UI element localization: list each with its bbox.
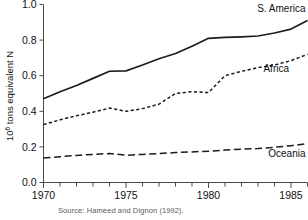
- series-label-s-america: S. America: [257, 3, 306, 14]
- data-series-group: [44, 21, 308, 159]
- x-tick-label: 1980: [197, 189, 221, 201]
- y-tick-label: 0.6: [22, 69, 37, 81]
- y-tick-label: 0.8: [22, 34, 37, 46]
- source-caption: Source: Hameed and Dignon (1992).: [58, 206, 298, 215]
- y-tick-label: 0.2: [22, 141, 37, 153]
- x-axis-tick-labels: 1970197519801985: [32, 189, 303, 201]
- y-axis-title: 106 tons equivalent N: [4, 51, 15, 141]
- x-tick-label: 1970: [32, 189, 56, 201]
- series-label-oceania: Oceania: [268, 148, 306, 159]
- y-tick-label: 0.4: [22, 105, 37, 117]
- y-tick-label: 1.0: [22, 0, 37, 10]
- line-chart-plot: 0.00.20.40.60.81.0 1970197519801985 S. A…: [0, 0, 308, 220]
- y-tick-label: 0.0: [22, 176, 37, 188]
- x-tick-label: 1975: [114, 189, 138, 201]
- x-tick-label: 1985: [279, 189, 303, 201]
- y-axis-tick-labels: 0.00.20.40.60.81.0: [22, 0, 37, 188]
- svg-text:106 tons equivalent N: 106 tons equivalent N: [4, 51, 15, 141]
- series-label-africa: Africa: [263, 63, 289, 74]
- chart-figure: 0.00.20.40.60.81.0 1970197519801985 S. A…: [0, 0, 308, 220]
- series-line-s-america: [44, 21, 308, 99]
- x-axis-ticks: [44, 183, 308, 189]
- y-axis-ticks: [40, 5, 44, 183]
